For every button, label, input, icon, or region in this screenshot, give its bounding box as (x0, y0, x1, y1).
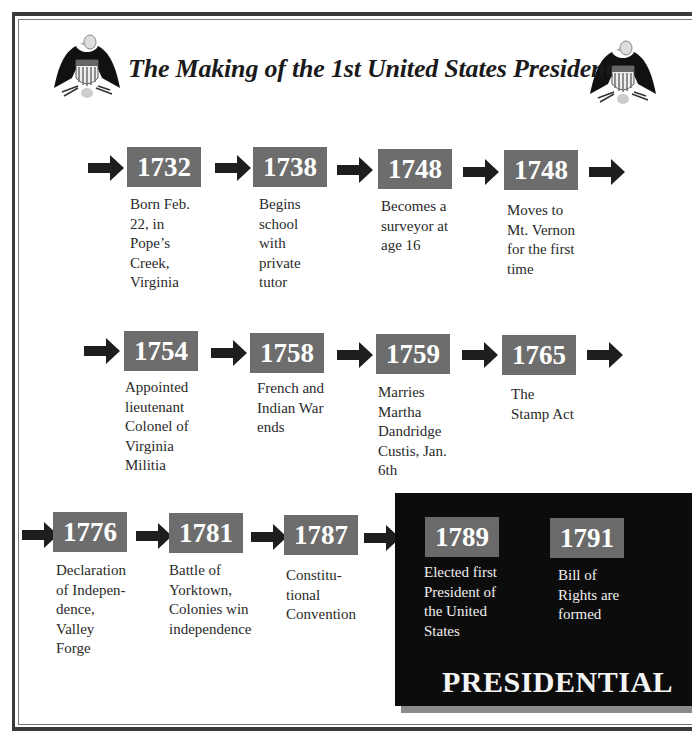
event-description: Appointed lieutenant Colonel of Virginia… (125, 378, 189, 476)
event-description: Declaration of Indepen- dence, Valley Fo… (56, 561, 126, 659)
year-box-1748: 1748 (378, 149, 452, 189)
year-box-1748-b: 1748 (504, 150, 578, 190)
arrow-right-icon (589, 159, 625, 185)
year-box-1787: 1787 (284, 515, 358, 555)
event-description: Becomes a surveyor at age 16 (381, 197, 448, 256)
year-box-1758: 1758 (250, 333, 324, 373)
year-box-1738: 1738 (253, 147, 327, 187)
arrow-right-icon (587, 342, 623, 368)
eagle-shield-icon (50, 30, 124, 104)
event-description: Moves to Mt. Vernon for the first time (507, 201, 575, 279)
arrow-right-icon (84, 338, 120, 364)
page-title: The Making of the 1st United States Pres… (128, 54, 612, 84)
year-box-1732: 1732 (127, 147, 201, 187)
arrow-right-icon (215, 155, 251, 181)
arrow-right-icon (88, 155, 124, 181)
event-description: Born Feb. 22, in Pope’s Creek, Virginia (130, 195, 190, 293)
arrow-right-icon (462, 342, 498, 368)
year-box-1781: 1781 (169, 513, 243, 553)
event-description: Begins school with private tutor (259, 195, 301, 293)
presidential-label: PRESIDENTIAL (442, 665, 673, 699)
arrow-right-icon (463, 159, 499, 185)
event-description: Marries Martha Dandridge Custis, Jan. 6t… (378, 383, 447, 481)
arrow-right-icon (337, 157, 373, 183)
year-box-1776: 1776 (53, 512, 127, 552)
year-box-1754: 1754 (124, 331, 198, 371)
event-description: Constitu- tional Convention (286, 566, 356, 625)
event-description: Bill of Rights are formed (558, 566, 619, 625)
event-description: The Stamp Act (511, 385, 574, 424)
event-description: French and Indian War ends (257, 379, 324, 438)
arrow-right-icon (136, 523, 172, 549)
event-description: Elected first President of the United St… (424, 563, 497, 641)
event-description: Battle of Yorktown, Colonies win indepen… (169, 561, 251, 639)
year-box-1759: 1759 (376, 334, 450, 374)
year-box-1789: 1789 (425, 517, 499, 557)
year-box-1791: 1791 (550, 518, 624, 558)
arrow-right-icon (211, 340, 247, 366)
arrow-right-icon (337, 342, 373, 368)
year-box-1765: 1765 (502, 335, 576, 375)
arrow-right-icon (251, 524, 287, 550)
